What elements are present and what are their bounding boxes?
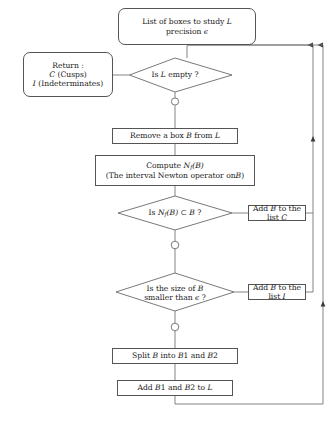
junction-circle-2 <box>171 241 179 249</box>
split-text-b: into <box>161 351 176 360</box>
diamond-is-newton-subset <box>118 196 232 230</box>
node-start-var-epsilon: ϵ <box>204 27 208 36</box>
split-var-b: B <box>153 351 159 360</box>
node-compute-line-2: (The interval Newton operator onB) <box>106 171 244 180</box>
add-split-var-l: L <box>208 383 213 392</box>
remove-box-var-l: L <box>215 131 220 140</box>
arrowhead-outer-loop <box>321 301 326 307</box>
node-start-text-b: precision <box>166 27 201 36</box>
compute-arg-b: (B) <box>192 161 204 170</box>
arrowhead-results-rail <box>311 136 316 142</box>
add-split-text-a: Add <box>137 383 152 392</box>
node-compute-newton[interactable]: Compute Nf(B) (The interval Newton opera… <box>95 155 255 186</box>
node-return-line-2: C (Cusps) <box>49 70 87 79</box>
node-add-split-to-l[interactable]: Add B1 and B2 to L <box>117 380 233 396</box>
remove-box-text-b: from <box>194 131 212 140</box>
add-c-text-a: Add <box>253 204 268 213</box>
node-remove-box[interactable]: Remove a box B from L <box>112 128 238 144</box>
node-start-text-a: List of boxes to study <box>142 17 224 26</box>
diamond-is-l-empty <box>130 58 233 92</box>
add-c-var-c: C <box>281 213 287 222</box>
compute-text-a: Compute <box>146 161 181 170</box>
node-add-i-line: Add B to the list I <box>249 283 305 302</box>
add-c-var-b: B <box>271 204 277 213</box>
node-return-text-cusps: (Cusps) <box>57 70 86 79</box>
add-split-text-b: 1 and <box>161 383 183 392</box>
junction-circle-3 <box>171 323 179 331</box>
node-return-text-indeterminates: (Indeterminates) <box>38 79 103 88</box>
node-compute-line-1: Compute Nf(B) <box>146 161 204 171</box>
add-i-var-b: B <box>271 283 277 292</box>
node-return[interactable]: Return : C (Cusps) I (Indeterminates) <box>23 52 113 97</box>
flowchart-canvas: List of boxes to study L precision ϵ Ret… <box>0 0 332 426</box>
node-return-line-3: I (Indeterminates) <box>33 79 103 88</box>
compute-text-c: ) <box>241 171 244 180</box>
node-add-split-line: Add B1 and B2 to L <box>137 383 212 392</box>
compute-text-b: (The interval Newton operator on <box>106 171 236 180</box>
node-split-box[interactable]: Split B into B1 and B2 <box>112 348 238 364</box>
node-add-to-list-c[interactable]: Add B to the list C <box>248 205 306 221</box>
node-return-var-i: I <box>33 79 36 88</box>
add-i-var-i: I <box>283 292 286 301</box>
node-split-line: Split B into B1 and B2 <box>132 351 218 360</box>
split-text-d: 2 <box>213 351 218 360</box>
junction-circle-1 <box>171 98 178 105</box>
add-split-text-c: 2 to <box>190 383 205 392</box>
node-start-line-1: List of boxes to study L <box>142 17 232 26</box>
node-return-line-1: Return : <box>52 61 84 70</box>
node-start[interactable]: List of boxes to study L precision ϵ <box>118 8 256 45</box>
node-start-var-l: L <box>227 17 232 26</box>
node-start-line-2: precision ϵ <box>166 27 208 36</box>
node-remove-box-line: Remove a box B from L <box>130 131 220 140</box>
node-add-c-line: Add B to the list C <box>249 204 305 223</box>
add-i-text-a: Add <box>253 283 268 292</box>
diamond-is-size-small <box>116 273 234 311</box>
node-return-var-c: C <box>49 70 55 79</box>
split-text-c: 1 and <box>184 351 206 360</box>
node-add-to-list-i[interactable]: Add B to the list I <box>248 284 306 300</box>
remove-box-text-a: Remove a box <box>130 131 184 140</box>
split-text-a: Split <box>132 351 150 360</box>
remove-box-var-b: B <box>186 131 192 140</box>
